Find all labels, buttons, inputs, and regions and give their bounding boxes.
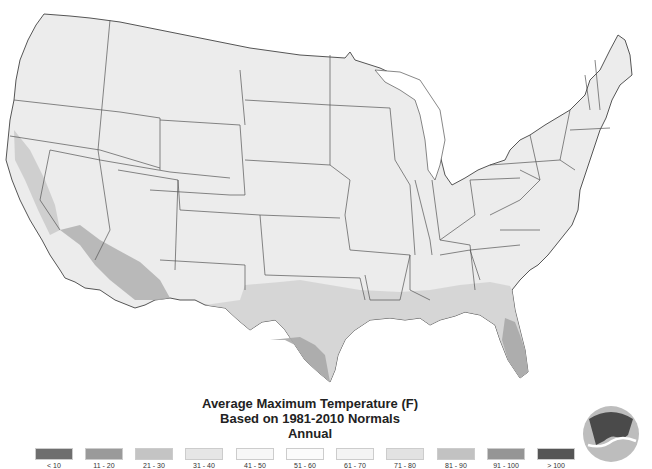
map-title: Average Maximum Temperature (F) bbox=[0, 396, 620, 411]
legend-swatch-21-30 bbox=[135, 448, 173, 460]
legend-swatch-51-60 bbox=[286, 448, 324, 460]
legend-label: 31 - 40 bbox=[179, 462, 229, 469]
legend-swatch-81-90 bbox=[437, 448, 475, 460]
legend-swatch-31-40 bbox=[185, 448, 223, 460]
us-temperature-map bbox=[0, 0, 652, 400]
legend-label: < 10 bbox=[29, 462, 79, 469]
legend-label: > 100 bbox=[531, 462, 581, 469]
legend-label: 91 - 100 bbox=[481, 462, 531, 469]
legend-label: 61 - 70 bbox=[330, 462, 380, 469]
map-subtitle: Based on 1981-2010 Normals bbox=[0, 411, 620, 426]
legend-swatch-71-80 bbox=[386, 448, 424, 460]
legend-label: 11 - 20 bbox=[79, 462, 129, 469]
legend-swatch-91-100 bbox=[487, 448, 525, 460]
hot-zone-florida bbox=[502, 318, 528, 378]
legend-label: 21 - 30 bbox=[129, 462, 179, 469]
legend-swatch-11-20 bbox=[85, 448, 123, 460]
legend-label: 41 - 50 bbox=[230, 462, 280, 469]
legend-swatch-lt10 bbox=[35, 448, 73, 460]
map-period: Annual bbox=[0, 426, 620, 441]
noaa-logo-icon bbox=[582, 405, 640, 463]
legend-swatch-61-70 bbox=[336, 448, 374, 460]
legend-label: 71 - 80 bbox=[380, 462, 430, 469]
legend-label: 81 - 90 bbox=[431, 462, 481, 469]
legend-swatch-41-50 bbox=[236, 448, 274, 460]
legend-label: 51 - 60 bbox=[280, 462, 330, 469]
warm-zone-south bbox=[205, 280, 528, 382]
legend-swatch-gt100 bbox=[537, 448, 575, 460]
